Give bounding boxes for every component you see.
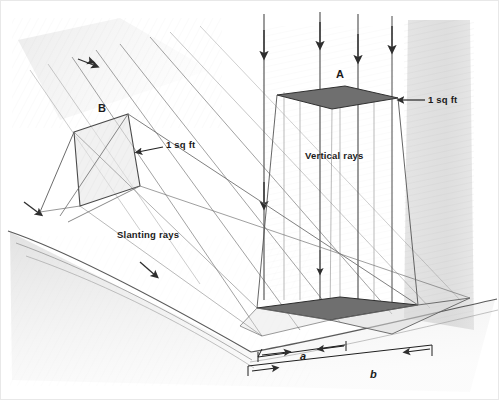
label-area-b: 1 sq ft xyxy=(166,139,195,150)
label-area-a: 1 sq ft xyxy=(428,94,457,105)
label-dim-b: b xyxy=(370,368,377,380)
patch-b xyxy=(40,114,140,222)
label-dim-a: a xyxy=(300,350,306,362)
figure-canvas: A B 1 sq ft 1 sq ft Vertical rays Slanti… xyxy=(0,0,499,400)
label-slanting-rays: Slanting rays xyxy=(117,229,179,240)
label-patch-a: A xyxy=(336,68,344,80)
label-patch-b: B xyxy=(98,102,106,114)
leader-line-left-arrow xyxy=(138,147,163,152)
diagram-svg xyxy=(0,0,499,400)
label-vertical-rays: Vertical rays xyxy=(305,150,364,161)
